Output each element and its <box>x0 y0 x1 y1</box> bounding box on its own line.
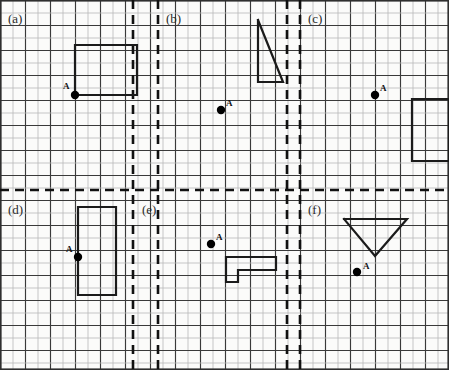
point-marker-e <box>207 240 215 248</box>
point-label-a: A <box>63 82 70 91</box>
panel-label-f: (f) <box>308 203 321 216</box>
point-marker-d <box>74 253 82 261</box>
figure-e-l-shape <box>226 257 276 282</box>
figure-a-rectangle <box>75 45 137 95</box>
panel-label-c: (c) <box>308 12 322 25</box>
point-marker-c <box>371 91 379 99</box>
panel-label-d: (d) <box>8 203 23 216</box>
figure-c-rectangle <box>412 99 449 161</box>
figure-f-triangle <box>344 219 407 256</box>
point-marker-a <box>71 91 79 99</box>
point-label-d: A <box>66 245 73 254</box>
point-label-b: A <box>226 99 233 108</box>
point-label-e: A <box>216 233 223 242</box>
panel-label-e: (e) <box>142 203 156 216</box>
worksheet-canvas: (a)A(b)A(c)A(d)A(e)A(f)A <box>0 0 449 370</box>
point-label-f: A <box>363 262 370 271</box>
shape-layer <box>0 0 449 370</box>
panel-label-b: (b) <box>166 12 181 25</box>
point-label-c: A <box>380 84 387 93</box>
point-marker-f <box>353 268 361 276</box>
figure-d-rectangle <box>78 207 116 295</box>
point-marker-b <box>217 106 225 114</box>
panel-label-a: (a) <box>8 12 22 25</box>
figure-b-triangle <box>258 20 283 82</box>
